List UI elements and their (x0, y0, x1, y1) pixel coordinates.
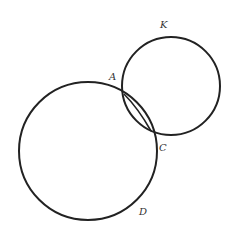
large-circle (19, 82, 157, 220)
label-c: C (159, 142, 167, 153)
label-k: K (159, 19, 168, 30)
small-circle (122, 37, 220, 135)
label-d: D (138, 206, 147, 217)
geometry-diagram: K A C D (0, 0, 233, 235)
middle-arc (124, 94, 151, 131)
label-a: A (108, 71, 116, 82)
